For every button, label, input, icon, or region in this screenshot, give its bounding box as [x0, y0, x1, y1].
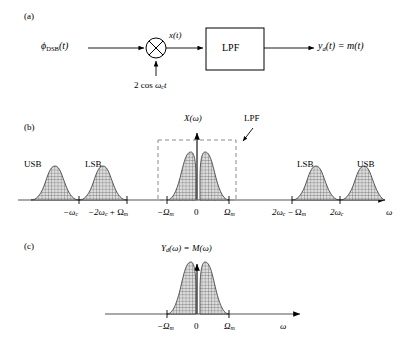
c-title: Yd(ω) = M(ω): [161, 244, 212, 254]
b-tick-label-neg-om: −Ωm: [157, 208, 174, 218]
panel-a-tag: (a): [24, 12, 34, 21]
panel-b-spectrum: [18, 128, 385, 204]
b-lobe-usb-left: [31, 166, 79, 200]
b-label-lsb-right: LSB: [297, 160, 314, 169]
osc-var-t: t: [164, 80, 167, 90]
b-lpf-callout: LPF: [244, 114, 260, 123]
c-lobe-left: [167, 262, 196, 314]
x-of-t: x(t): [169, 30, 182, 40]
c-lobe-right: [200, 262, 229, 314]
osc-prefix: 2 cos: [134, 80, 155, 90]
b-title-arg: (ω): [190, 113, 202, 123]
mid-signal-label: x(t): [169, 31, 182, 40]
tick5-suffix: − Ω: [286, 207, 302, 217]
b-tick-label-neg2wc-plus-om: −2ωc + Ωm: [88, 208, 128, 218]
tick2-sub: m: [170, 211, 174, 217]
b-tick-label-zero: 0: [194, 208, 199, 217]
b-axis-label-omega: ω: [386, 208, 392, 217]
dsb-input-label: ϕDSB(t): [41, 41, 68, 52]
c-tick0-text: −Ω: [157, 321, 170, 331]
c-tick0-sub: m: [170, 325, 174, 331]
c-axis-label-omega: ω: [280, 322, 286, 331]
b-tick-label-neg-wc: −ωc: [63, 208, 78, 218]
tick6-sub: c: [341, 211, 344, 217]
tick6-text: 2ω: [330, 207, 341, 217]
y-rest: (t) = m(t): [326, 40, 364, 51]
dsb-subscript: DSB: [46, 45, 59, 52]
tick1-sub2: m: [124, 211, 128, 217]
c-tick-label-neg-om: −Ωm: [157, 322, 174, 332]
b-label-lsb-left: LSB: [85, 160, 102, 169]
tick0-sub: c: [75, 211, 78, 217]
tick2-text: −Ω: [157, 207, 170, 217]
phi-argument: (t): [59, 40, 68, 51]
b-tick-label-om: Ωm: [224, 208, 235, 218]
figure-canvas: [0, 0, 406, 361]
b-tick-label-2wc-minus-om: 2ωc − Ωm: [272, 208, 306, 218]
oscillator-label: 2 cos ωct: [134, 81, 167, 91]
tick1-text: −2ω: [88, 207, 105, 217]
c-title-mid: (ω) = M: [169, 243, 199, 253]
b-lobe-center-right: [200, 152, 229, 200]
panel-b-tag: (b): [24, 123, 35, 132]
b-lobe-lsb-right: [292, 166, 340, 200]
c-tick-label-om: Ωm: [224, 322, 235, 332]
tick1-suffix: + Ω: [108, 207, 124, 217]
b-label-usb-right: USB: [357, 160, 375, 169]
b-title: X(ω): [184, 114, 202, 123]
b-lpf-callout-arrow: [243, 128, 253, 141]
lpf-block-label: LPF: [222, 43, 239, 53]
c-tick2-sub: m: [231, 325, 235, 331]
tick0-text: −ω: [63, 207, 75, 217]
b-tick-label-2wc: 2ωc: [330, 208, 344, 218]
output-label: yd(t) = m(t): [318, 41, 364, 52]
tick5-text: 2ω: [272, 207, 283, 217]
panel-c-spectrum: [105, 262, 300, 318]
b-label-usb-left: USB: [24, 160, 42, 169]
c-title-right: (ω): [199, 243, 211, 253]
b-lobe-lsb-left: [79, 166, 127, 200]
b-lobe-usb-right: [340, 166, 385, 200]
panel-c-tag: (c): [24, 242, 34, 251]
b-lobe-center-left: [167, 152, 196, 200]
tick4-sub: m: [231, 211, 235, 217]
tick5-sub2: m: [302, 211, 306, 217]
c-tick-label-zero: 0: [194, 322, 199, 331]
panel-a-block-diagram: [88, 28, 314, 76]
